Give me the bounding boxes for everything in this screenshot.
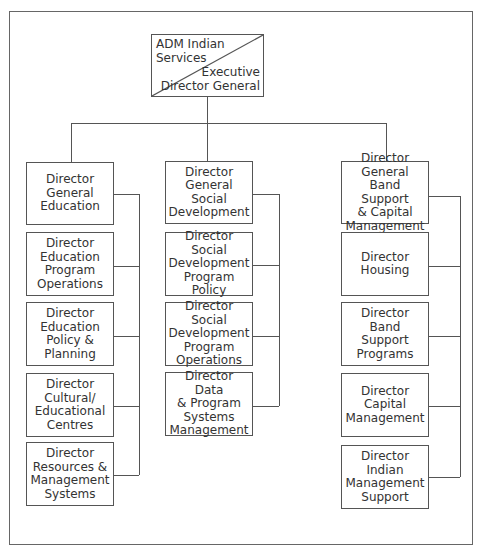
box-label: Director Resources & Management Systems bbox=[30, 447, 109, 501]
box-label: Director Social Development Program Oper… bbox=[169, 300, 250, 368]
box-director-general-education: Director General Education bbox=[26, 162, 114, 225]
connector-top-vertical bbox=[207, 96, 208, 123]
box-label: Director Education Policy & Planning bbox=[40, 307, 100, 361]
middle-tick-2 bbox=[253, 265, 279, 266]
box-label: Director Capital Management bbox=[345, 385, 424, 426]
box-label: Director Social Development Program Poli… bbox=[169, 230, 250, 298]
box-education-program-operations: Director Education Program Operations bbox=[26, 232, 114, 296]
box-education-policy-planning: Director Education Policy & Planning bbox=[26, 302, 114, 366]
box-director-general-social-development: Director General Social Development bbox=[165, 161, 253, 224]
box-band-support-programs: Director Band Support Programs bbox=[341, 302, 429, 366]
box-social-development-program-operations: Director Social Development Program Oper… bbox=[165, 302, 253, 366]
right-tick-5 bbox=[428, 477, 460, 478]
executive-box: ADM Indian Services Executive Director G… bbox=[151, 34, 264, 97]
box-label: Director Indian Management Support bbox=[345, 450, 425, 504]
left-spine bbox=[139, 194, 140, 475]
box-label: Director Data & Program Systems Manageme… bbox=[169, 370, 249, 438]
box-label: Director General Band Support & Capital … bbox=[345, 152, 425, 233]
right-tick-3 bbox=[428, 336, 460, 337]
box-capital-management: Director Capital Management bbox=[341, 373, 429, 437]
box-label: Director General Education bbox=[40, 173, 100, 214]
left-tick-2 bbox=[113, 266, 139, 267]
connector-left-drop bbox=[71, 123, 72, 162]
middle-tick-4 bbox=[253, 406, 279, 407]
right-tick-2 bbox=[428, 266, 460, 267]
box-data-program-systems-management: Director Data & Program Systems Manageme… bbox=[165, 372, 253, 436]
left-tick-1 bbox=[113, 194, 139, 195]
connector-middle-drop bbox=[207, 123, 208, 161]
box-label: Director Housing bbox=[361, 251, 410, 278]
right-tick-1 bbox=[428, 196, 460, 197]
left-tick-4 bbox=[113, 406, 139, 407]
middle-tick-1 bbox=[253, 194, 279, 195]
box-resources-management-systems: Director Resources & Management Systems bbox=[26, 442, 114, 506]
box-label: Director General Social Development bbox=[169, 166, 250, 220]
box-indian-management-support: Director Indian Management Support bbox=[341, 445, 429, 509]
left-tick-3 bbox=[113, 336, 139, 337]
middle-tick-3 bbox=[253, 336, 279, 337]
right-tick-4 bbox=[428, 406, 460, 407]
box-label: Director Band Support Programs bbox=[345, 307, 425, 361]
box-label: Director Cultural/ Educational Centres bbox=[35, 378, 105, 432]
box-director-housing: Director Housing bbox=[341, 232, 429, 296]
right-spine bbox=[460, 196, 461, 477]
middle-spine bbox=[279, 194, 280, 406]
box-director-general-band-support: Director General Band Support & Capital … bbox=[341, 161, 429, 224]
box-cultural-educational-centres: Director Cultural/ Educational Centres bbox=[26, 373, 114, 437]
box-label: Director Education Program Operations bbox=[37, 237, 103, 291]
executive-director-label: Executive Director General bbox=[161, 66, 260, 93]
box-social-development-program-policy: Director Social Development Program Poli… bbox=[165, 232, 253, 296]
adm-label: ADM Indian Services bbox=[156, 38, 225, 65]
left-tick-5 bbox=[113, 475, 139, 476]
connector-horizontal bbox=[71, 123, 387, 124]
